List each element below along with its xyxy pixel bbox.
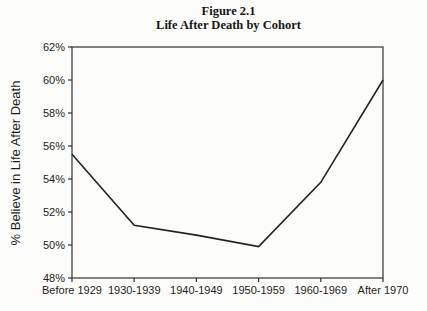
x-tick-label: 1950-1959 xyxy=(232,284,285,296)
x-tick-label: After 1970 xyxy=(358,284,409,296)
line-chart: 48%50%52%54%56%58%60%62%Before 19291930-… xyxy=(0,0,427,311)
y-tick-label: 52% xyxy=(43,206,65,218)
y-axis-title: % Believe in Life After Death xyxy=(8,81,23,246)
y-tick-label: 62% xyxy=(43,41,65,53)
y-tick-label: 48% xyxy=(43,272,65,284)
x-tick-label: 1940-1949 xyxy=(170,284,223,296)
figure-page: Figure 2.1 Life After Death by Cohort 48… xyxy=(0,0,427,311)
y-tick-label: 58% xyxy=(43,107,65,119)
data-line-believe-life-after-death xyxy=(72,80,383,247)
x-tick-label: Before 1929 xyxy=(42,284,102,296)
x-tick-label: 1960-1969 xyxy=(294,284,347,296)
y-tick-label: 50% xyxy=(43,239,65,251)
y-tick-label: 56% xyxy=(43,140,65,152)
plot-border xyxy=(72,47,383,278)
y-tick-label: 60% xyxy=(43,74,65,86)
x-tick-label: 1930-1939 xyxy=(108,284,161,296)
y-tick-label: 54% xyxy=(43,173,65,185)
